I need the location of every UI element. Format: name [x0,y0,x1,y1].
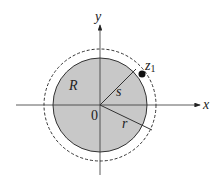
disk-diagram: y x 0 R s r z1 [0,0,219,183]
radius-s-label: s [116,84,122,99]
y-axis-label: y [93,9,102,24]
x-axis-label: x [202,97,210,112]
point-label: z1 [144,58,155,74]
region-label: R [68,78,78,93]
origin-label: 0 [91,108,98,123]
radius-r-label: r [122,116,128,131]
